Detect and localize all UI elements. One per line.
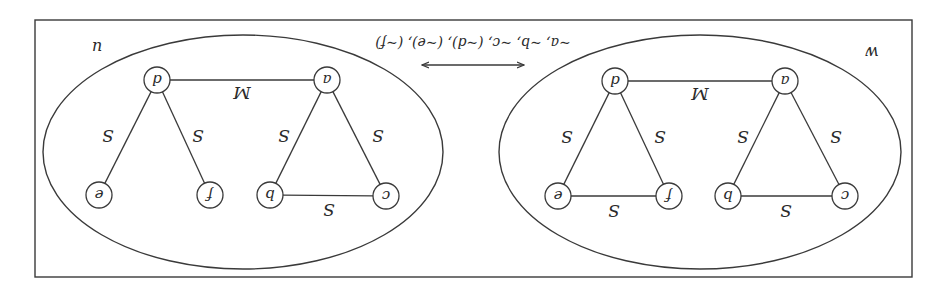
- diagram-figure: ~a, ~b, ~c, (~d), (~e), (~f) wMSSSSSSadc…: [0, 0, 946, 295]
- node-a: a: [314, 67, 340, 93]
- figure-frame: [35, 20, 912, 277]
- node-label: c: [840, 187, 849, 205]
- diagram-canvas: ~a, ~b, ~c, (~d), (~e), (~f) wMSSSSSSadc…: [0, 0, 946, 295]
- edge-label: S: [192, 126, 204, 146]
- edge-label: S: [654, 127, 666, 147]
- node-label: c: [381, 187, 390, 205]
- node-f: f: [656, 183, 682, 209]
- arrow-label: ~a, ~b, ~c, (~d), (~e), (~f): [375, 35, 570, 51]
- edge-label: S: [780, 201, 792, 221]
- edge-label: S: [102, 126, 114, 146]
- graph-u: uMSSSSSadcbfe: [43, 35, 443, 269]
- graph-w: wMSSSSSSadcbfe: [499, 35, 901, 269]
- node-label: e: [553, 187, 562, 205]
- node-c: c: [373, 183, 399, 209]
- edge-label: M: [233, 83, 252, 103]
- edge-label: S: [372, 126, 384, 146]
- node-label: d: [610, 72, 620, 90]
- node-b: b: [715, 183, 741, 209]
- node-b: b: [257, 182, 283, 208]
- node-label: e: [94, 186, 103, 204]
- node-label: d: [152, 71, 162, 89]
- edge-label: S: [561, 127, 573, 147]
- graph-boundary-w: [499, 35, 901, 269]
- node-f: f: [197, 182, 223, 208]
- node-d: d: [602, 68, 628, 94]
- node-a: a: [772, 68, 798, 94]
- node-label: b: [723, 187, 733, 205]
- node-label: a: [781, 72, 790, 90]
- graphs-container: wMSSSSSSadcbfeuMSSSSSadcbfe: [43, 35, 901, 269]
- edge-label: M: [691, 84, 710, 104]
- graph-boundary-u: [43, 35, 443, 269]
- edge-label: S: [830, 127, 842, 147]
- node-label: a: [323, 71, 332, 89]
- transformation-arrow: ~a, ~b, ~c, (~d), (~e), (~f): [375, 35, 570, 65]
- edge-b-c: [283, 195, 373, 196]
- node-label: b: [265, 186, 275, 204]
- edge-label: S: [278, 126, 290, 146]
- graph-label-w: w: [865, 43, 879, 62]
- node-d: d: [144, 67, 170, 93]
- graph-label-u: u: [92, 38, 102, 57]
- node-e: e: [86, 182, 112, 208]
- node-c: c: [832, 183, 858, 209]
- edge-label: S: [608, 201, 620, 221]
- edge-label: S: [323, 200, 335, 220]
- node-e: e: [545, 183, 571, 209]
- edge-label: S: [737, 127, 749, 147]
